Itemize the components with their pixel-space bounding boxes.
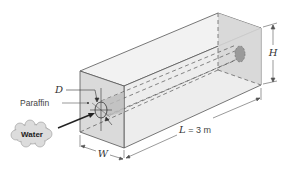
water-label: Water <box>21 130 43 139</box>
paraffin-block-diagram: Water D Paraffin W L = 3 m H <box>0 0 287 171</box>
paraffin-label: Paraffin <box>20 98 49 108</box>
length-label: L = 3 m <box>178 124 211 135</box>
paraffin-leader-dot <box>87 102 89 104</box>
width-label: W <box>98 148 109 159</box>
height-label: H <box>268 47 278 58</box>
length-value: = 3 m <box>186 125 211 135</box>
pipe-exit <box>235 46 245 62</box>
diameter-label: D <box>54 84 63 95</box>
